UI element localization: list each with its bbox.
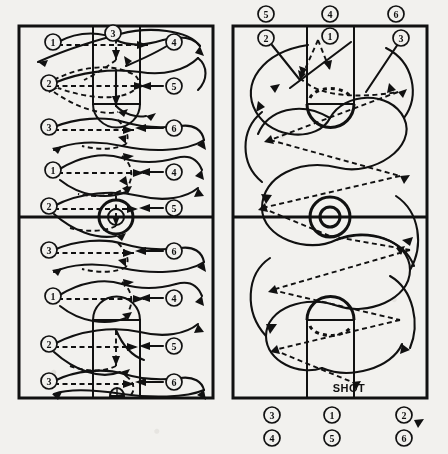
marker-bottom-r2-left[interactable]: 4	[264, 430, 280, 446]
marker-label: 6	[402, 433, 407, 444]
marker-left-r6-right[interactable]: 6	[166, 243, 182, 259]
right-bottom-markers-row2: 4 5 6	[264, 430, 412, 446]
marker-label: 5	[264, 9, 269, 20]
marker-left-r8-right[interactable]: 5	[166, 338, 182, 354]
marker-label: 4	[270, 433, 275, 444]
marker-label: 5	[172, 203, 177, 214]
left-row-5-paths	[54, 188, 204, 241]
marker-label: 3	[111, 28, 116, 39]
marker-left-r5-right[interactable]: 5	[166, 200, 182, 216]
marker-label: 3	[270, 410, 275, 421]
marker-top-inside-right[interactable]: 3	[393, 30, 409, 46]
marker-left-r1-left[interactable]: 1	[45, 34, 61, 50]
marker-bottom-r2-right[interactable]: 6	[396, 430, 412, 446]
marker-left-r9-left[interactable]: 3	[41, 373, 57, 389]
marker-label: 6	[172, 377, 177, 388]
marker-left-r3-left[interactable]: 3	[41, 119, 57, 135]
marker-left-r2-left[interactable]: 2	[41, 75, 57, 91]
marker-label: 3	[47, 245, 52, 256]
marker-left-r6-left[interactable]: 3	[41, 242, 57, 258]
marker-label: 5	[330, 433, 335, 444]
right-bottom-markers-row1: 3 1 2	[264, 407, 412, 423]
marker-label: 4	[172, 37, 177, 48]
right-panel: SHOT 5 4 6 2 1	[233, 6, 427, 446]
marker-left-r4-right[interactable]: 4	[166, 164, 182, 180]
shot-annotation: SHOT	[333, 382, 366, 394]
marker-top-inside-left[interactable]: 2	[258, 30, 274, 46]
marker-label: 2	[47, 78, 52, 89]
marker-label: 1	[51, 165, 56, 176]
marker-left-r4-left[interactable]: 1	[45, 162, 61, 178]
marker-label: 3	[399, 33, 404, 44]
marker-label: 5	[172, 341, 177, 352]
marker-bottom-r2-center[interactable]: 5	[324, 430, 340, 446]
marker-top-outside-right[interactable]: 6	[388, 6, 404, 22]
marker-label: 2	[47, 201, 52, 212]
marker-bottom-r1-left[interactable]: 3	[264, 407, 280, 423]
marker-label: 2	[264, 33, 269, 44]
marker-label: 3	[47, 122, 52, 133]
marker-left-r7-right[interactable]: 4	[166, 290, 182, 306]
marker-left-r9-right[interactable]: 6	[166, 374, 182, 390]
marker-label: 2	[47, 339, 52, 350]
marker-bottom-r1-center[interactable]: 1	[324, 407, 340, 423]
marker-label: 4	[172, 293, 177, 304]
left-panel: 1 3 4 2 5 3	[19, 25, 213, 400]
marker-label: 4	[172, 167, 177, 178]
right-top-inside-markers: 2 1 3	[258, 28, 409, 46]
marker-label: 6	[394, 9, 399, 20]
marker-left-r7-left[interactable]: 1	[45, 288, 61, 304]
marker-top-inside-center[interactable]: 1	[322, 28, 338, 44]
marker-label: 4	[328, 9, 333, 20]
left-row-9-paths	[52, 371, 206, 400]
left-row-6-paths	[52, 241, 206, 276]
marker-left-r8-left[interactable]: 2	[41, 336, 57, 352]
marker-label: 2	[402, 410, 407, 421]
marker-bottom-r1-right[interactable]: 2	[396, 407, 412, 423]
diagram-root: 1 3 4 2 5 3	[0, 0, 448, 454]
marker-label: 6	[172, 246, 177, 257]
marker-label: 1	[328, 31, 333, 42]
marker-label: 1	[330, 410, 335, 421]
marker-top-outside-center[interactable]: 4	[322, 6, 338, 22]
marker-label: 1	[51, 37, 56, 48]
marker-left-r2-right[interactable]: 5	[166, 78, 182, 94]
right-top-outside-markers: 5 4 6	[258, 6, 404, 22]
marker-left-r1-right[interactable]: 4	[166, 34, 182, 50]
marker-label: 6	[172, 123, 177, 134]
marker-left-r5-left[interactable]: 2	[41, 198, 57, 214]
marker-left-r3-right[interactable]: 6	[166, 120, 182, 136]
marker-label: 1	[51, 291, 56, 302]
marker-label: 3	[47, 376, 52, 387]
marker-left-r1-center[interactable]: 3	[105, 25, 121, 41]
left-row-3-paths	[52, 119, 206, 154]
marker-top-outside-left[interactable]: 5	[258, 6, 274, 22]
marker-label: 5	[172, 81, 177, 92]
basketball-play-diagram: 1 3 4 2 5 3	[0, 0, 448, 454]
